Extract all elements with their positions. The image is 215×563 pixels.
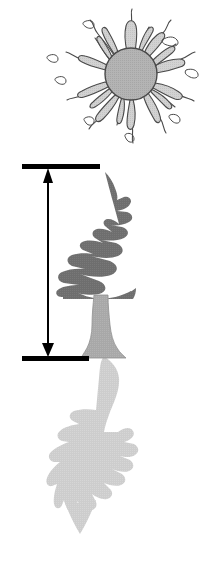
burst-core-circle	[105, 48, 157, 100]
upper-reference-bar	[22, 164, 100, 169]
lower-reference-bar	[22, 356, 89, 361]
figure-canvas: Radial burst form above a vertically mea…	[0, 0, 215, 563]
diagram-svg	[0, 0, 215, 563]
